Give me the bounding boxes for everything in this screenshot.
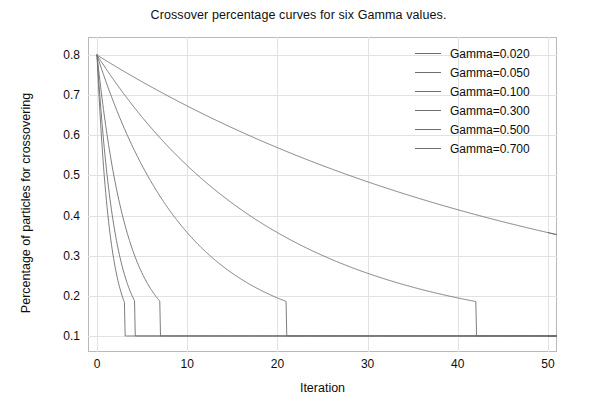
legend-label: Gamma=0.050 xyxy=(450,67,530,79)
chart-figure: Crossover percentage curves for six Gamm… xyxy=(0,0,597,419)
legend-label: Gamma=0.500 xyxy=(450,124,530,136)
x-tick-label: 0 xyxy=(94,357,101,371)
y-tick-label: 0.4 xyxy=(63,209,80,223)
legend-line-swatch xyxy=(415,53,441,54)
x-axis-label: Iteration xyxy=(88,381,557,395)
legend-label: Gamma=0.020 xyxy=(450,48,530,60)
x-tick-label: 20 xyxy=(271,357,284,371)
x-tick-label: 40 xyxy=(451,357,464,371)
legend-label: Gamma=0.700 xyxy=(450,143,530,155)
y-tick-label: 0.2 xyxy=(63,289,80,303)
x-tick-label: 30 xyxy=(361,357,374,371)
y-tick-label: 0.3 xyxy=(63,249,80,263)
legend-item[interactable]: Gamma=0.020 xyxy=(415,44,555,63)
legend-label: Gamma=0.100 xyxy=(450,86,530,98)
legend-item[interactable]: Gamma=0.300 xyxy=(415,101,555,120)
chart-title: Crossover percentage curves for six Gamm… xyxy=(0,8,597,22)
legend-item[interactable]: Gamma=0.500 xyxy=(415,120,555,139)
x-axis-tick-labels: 01020304050 xyxy=(0,357,597,377)
y-tick-label: 0.8 xyxy=(63,48,80,62)
y-tick-label: 0.7 xyxy=(63,88,80,102)
legend-label: Gamma=0.300 xyxy=(450,105,530,117)
legend-item[interactable]: Gamma=0.700 xyxy=(415,139,555,158)
legend-line-swatch xyxy=(415,91,441,92)
y-tick-label: 0.6 xyxy=(63,128,80,142)
x-tick-label: 10 xyxy=(181,357,194,371)
legend-line-swatch xyxy=(415,129,441,130)
legend-line-swatch xyxy=(415,110,441,111)
chart-legend: Gamma=0.020Gamma=0.050Gamma=0.100Gamma=0… xyxy=(415,42,555,160)
x-tick-label: 50 xyxy=(541,357,554,371)
legend-line-swatch xyxy=(415,148,441,149)
legend-line-swatch xyxy=(415,72,441,73)
y-tick-label: 0.5 xyxy=(63,168,80,182)
legend-item[interactable]: Gamma=0.100 xyxy=(415,82,555,101)
legend-item[interactable]: Gamma=0.050 xyxy=(415,63,555,82)
y-tick-label: 0.1 xyxy=(63,329,80,343)
